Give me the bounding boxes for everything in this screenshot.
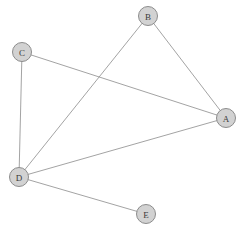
graph-node-d[interactable]: D — [10, 168, 29, 187]
edge-layer — [19, 16, 226, 214]
graph-node-circle-c[interactable] — [13, 43, 32, 62]
graph-edge-d-a — [19, 118, 226, 177]
graph-node-circle-a[interactable] — [217, 109, 236, 128]
graph-edge-d-e — [19, 177, 146, 214]
graph-edge-c-d — [19, 52, 22, 177]
graph-node-circle-e[interactable] — [137, 205, 156, 224]
graph-canvas: ABCDE — [0, 0, 243, 234]
node-layer: ABCDE — [10, 7, 236, 224]
graph-node-circle-b[interactable] — [139, 7, 158, 26]
graph-node-circle-d[interactable] — [10, 168, 29, 187]
graph-diagram: ABCDE — [0, 0, 243, 234]
graph-node-e[interactable]: E — [137, 205, 156, 224]
graph-node-c[interactable]: C — [13, 43, 32, 62]
graph-edge-b-a — [148, 16, 226, 118]
graph-edge-c-a — [22, 52, 226, 118]
graph-node-b[interactable]: B — [139, 7, 158, 26]
graph-node-a[interactable]: A — [217, 109, 236, 128]
graph-edge-b-d — [19, 16, 148, 177]
